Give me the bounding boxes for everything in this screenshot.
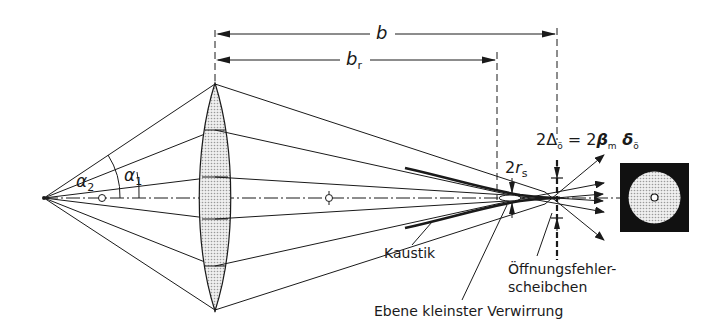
label-delta-formula: 2Δö = 2βm δö bbox=[536, 132, 639, 148]
rs-subscript: s bbox=[522, 167, 528, 180]
alpha1-symbol: α bbox=[124, 165, 135, 185]
angle-alpha2-arc bbox=[108, 155, 120, 198]
label-alpha2: α2 bbox=[76, 173, 94, 190]
lens bbox=[199, 83, 231, 311]
delta-left-sub: ö bbox=[557, 141, 563, 151]
optics-diagram bbox=[0, 0, 725, 334]
focal-marker-right bbox=[326, 195, 333, 202]
alpha1-subscript: 1 bbox=[135, 175, 142, 188]
delta-sub: ö bbox=[633, 141, 639, 151]
label-alpha1: α1 bbox=[124, 167, 142, 184]
delta-left: 2Δ bbox=[536, 130, 557, 149]
label-br: br bbox=[346, 50, 362, 68]
label-ebene: Ebene kleinster Verwirrung bbox=[374, 304, 563, 318]
incident-rays bbox=[44, 84, 215, 310]
rs-symbol: r bbox=[515, 158, 522, 177]
delta-eq: = 2 bbox=[563, 130, 597, 149]
alpha2-symbol: α bbox=[76, 171, 87, 191]
beta-symbol: β bbox=[596, 130, 607, 149]
label-oeffnungsfehler-1: Öffnungsfehler- bbox=[508, 262, 616, 276]
label-oeffnungsfehler-2: scheibchen bbox=[508, 280, 587, 294]
focal-marker-left bbox=[99, 195, 106, 202]
object-point bbox=[42, 196, 46, 200]
label-br-subscript: r bbox=[357, 59, 362, 72]
beta-sub: m bbox=[608, 141, 617, 151]
label-b: b bbox=[376, 24, 387, 42]
label-kaustik: Kaustik bbox=[384, 246, 435, 260]
aberration-disc-inset bbox=[620, 163, 689, 232]
delta-symbol: δ bbox=[617, 130, 634, 149]
ebene-leader bbox=[462, 205, 507, 300]
label-2rs: 2rs bbox=[505, 160, 528, 176]
rs-prefix: 2 bbox=[505, 158, 515, 177]
label-br-symbol: b bbox=[346, 48, 357, 69]
oeffnung-leader bbox=[537, 213, 552, 256]
alpha2-subscript: 2 bbox=[87, 181, 94, 194]
